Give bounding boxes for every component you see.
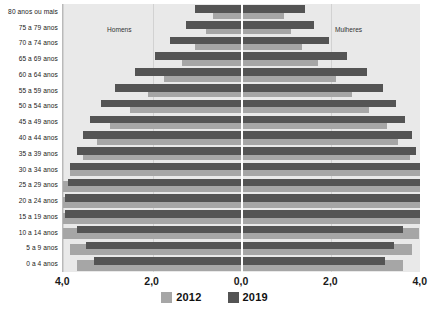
y-axis-tick-label: 70 a 74 anos	[0, 39, 58, 46]
legend-label: 2019	[243, 291, 268, 303]
bar-2019-women	[242, 100, 396, 108]
population-pyramid-chart: 80 anos ou mais75 a 79 anos70 a 74 anos6…	[0, 0, 429, 309]
y-axis-tick-label: 40 a 44 anos	[0, 134, 58, 141]
y-axis-tick-label: 15 a 19 anos	[0, 213, 58, 220]
bar-2019-men	[186, 21, 242, 29]
plot-area: Homens Mulheres	[62, 4, 420, 272]
bar-2019-men	[77, 147, 242, 155]
bar-2019-women	[242, 210, 420, 218]
y-axis-tick-label: 75 a 79 anos	[0, 24, 58, 31]
bar-2019-women	[242, 257, 385, 265]
y-axis-tick-label: 35 a 39 anos	[0, 150, 58, 157]
y-axis-tick-label: 5 a 9 anos	[0, 244, 58, 251]
center-axis-line	[241, 4, 243, 272]
bar-2019-women	[242, 147, 416, 155]
y-axis-tick-label: 10 a 14 anos	[0, 229, 58, 236]
label-mulheres: Mulheres	[335, 26, 362, 33]
y-axis-tick-label: 20 a 24 anos	[0, 197, 58, 204]
bar-2019-men	[90, 116, 242, 124]
bar-2019-men	[83, 131, 242, 139]
legend-item[interactable]: 2019	[228, 291, 268, 303]
bar-2019-men	[77, 226, 242, 234]
bar-2019-men	[65, 210, 242, 218]
y-axis-tick-label: 50 a 54 anos	[0, 102, 58, 109]
bar-2019-men	[155, 52, 242, 60]
legend-swatch-icon	[161, 292, 172, 303]
bar-2019-men	[195, 5, 242, 13]
x-axis-tick-label: 2,0	[144, 275, 159, 287]
bar-2019-women	[242, 242, 394, 250]
bar-2019-men	[86, 242, 242, 250]
chart-legend: 20122019	[0, 291, 429, 303]
bar-2019-women	[242, 52, 347, 60]
bar-2019-men	[170, 37, 242, 45]
bar-2019-men	[135, 68, 242, 76]
bar-2019-men	[70, 163, 242, 171]
bar-2019-men	[101, 100, 242, 108]
bar-2019-women	[242, 194, 420, 202]
y-axis-tick-label: 0 a 4 anos	[0, 260, 58, 267]
x-axis-tick-label: 2,0	[323, 275, 338, 287]
y-axis-tick-label: 60 a 64 anos	[0, 71, 58, 78]
bar-2019-women	[242, 179, 420, 187]
x-axis-tick-label: 4,0	[412, 275, 427, 287]
bar-2019-women	[242, 37, 329, 45]
y-axis-tick-label: 55 a 59 anos	[0, 87, 58, 94]
bar-2019-women	[242, 84, 383, 92]
legend-label: 2012	[176, 291, 201, 303]
y-axis-tick-label: 80 anos ou mais	[0, 8, 58, 15]
bar-2019-women	[242, 163, 420, 171]
legend-item[interactable]: 2012	[161, 291, 201, 303]
bar-2019-men	[68, 179, 242, 187]
y-axis-tick-label: 65 a 69 anos	[0, 55, 58, 62]
bar-2019-women	[242, 68, 367, 76]
bar-2019-men	[115, 84, 242, 92]
label-homens: Homens	[107, 26, 132, 33]
x-axis-tick-label: 0,0	[234, 275, 249, 287]
bar-2019-women	[242, 116, 405, 124]
y-axis-tick-label: 45 a 49 anos	[0, 118, 58, 125]
bar-2019-women	[242, 21, 314, 29]
bar-2019-men	[65, 194, 242, 202]
bar-2019-women	[242, 131, 412, 139]
y-axis-tick-label: 30 a 34 anos	[0, 166, 58, 173]
bar-2019-women	[242, 5, 305, 13]
legend-swatch-icon	[228, 292, 239, 303]
bar-2019-women	[242, 226, 403, 234]
bar-2019-men	[94, 257, 242, 265]
y-axis-tick-label: 25 a 29 anos	[0, 181, 58, 188]
x-axis-tick-label: 4,0	[55, 275, 70, 287]
